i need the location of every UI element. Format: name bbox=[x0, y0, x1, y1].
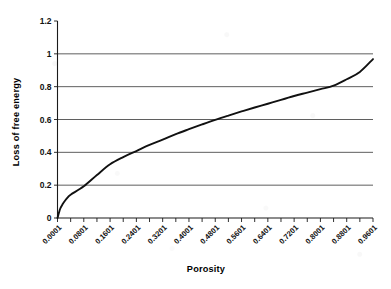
x-axis-title: Porosity bbox=[187, 264, 226, 274]
x-tick-label: 0.6401 bbox=[251, 223, 274, 246]
data-series-line bbox=[58, 59, 374, 218]
x-tick-label: 0.7201 bbox=[277, 223, 300, 246]
x-tick-label: 0.8801 bbox=[330, 223, 353, 246]
x-tick-label: 0.9601 bbox=[356, 223, 379, 246]
x-tick-group bbox=[58, 218, 374, 222]
x-tick-label: 0.1601 bbox=[93, 223, 116, 246]
x-tick-labels: 0.00010.08010.16010.24010.32010.40010.48… bbox=[41, 223, 380, 246]
y-tick-label: 0.6 bbox=[40, 115, 52, 125]
y-tick-label: 0.8 bbox=[40, 82, 52, 92]
y-tick-label: 0.4 bbox=[40, 147, 52, 157]
x-tick-label: 0.0801 bbox=[67, 223, 90, 246]
y-tick-label: 0.2 bbox=[40, 180, 52, 190]
x-tick-label: 0.2401 bbox=[119, 223, 142, 246]
x-tick-label: 0.0001 bbox=[41, 223, 64, 246]
y-tick-labels: 00.20.40.60.811.2 bbox=[40, 16, 52, 223]
x-tick-label: 0.4001 bbox=[172, 223, 195, 246]
y-tick-label: 1.2 bbox=[40, 16, 52, 26]
chart-svg: 00.20.40.60.811.2 0.00010.08010.16010.24… bbox=[0, 0, 391, 289]
chart-figure: 00.20.40.60.811.2 0.00010.08010.16010.24… bbox=[0, 0, 391, 289]
y-tick-label: 0 bbox=[47, 213, 52, 223]
x-tick-label: 0.8001 bbox=[304, 223, 327, 246]
x-tick-label: 0.4801 bbox=[198, 223, 221, 246]
y-axis-title: Loss of free energy bbox=[11, 77, 21, 166]
y-tick-label: 1 bbox=[47, 49, 52, 59]
x-tick-label: 0.5601 bbox=[225, 223, 248, 246]
x-tick-label: 0.3201 bbox=[146, 223, 169, 246]
